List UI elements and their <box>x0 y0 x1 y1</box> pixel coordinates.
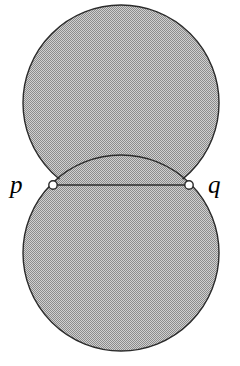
point-q-marker <box>185 181 193 189</box>
point-p-label: p <box>10 172 23 197</box>
point-q-label: q <box>208 172 221 197</box>
point-p-marker <box>49 181 57 189</box>
figure-canvas: p q <box>0 0 240 366</box>
figure-eight-diagram <box>0 0 240 366</box>
